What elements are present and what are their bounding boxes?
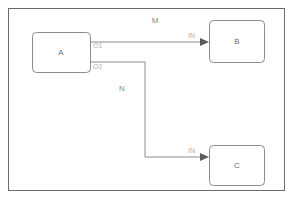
node-c[interactable]: C [210, 146, 265, 186]
edge-label-n: N [119, 84, 125, 93]
node-b[interactable]: B [210, 21, 265, 63]
diagram-svg: A B C O1 O2 IN IN M N [0, 0, 294, 201]
edge-label-m: M [152, 16, 159, 25]
port-label-b-in: IN [188, 32, 195, 39]
port-label-a-o2: O2 [93, 63, 102, 70]
node-a[interactable]: A [33, 33, 91, 73]
node-a-label: A [58, 48, 64, 57]
node-b-label: B [234, 37, 239, 46]
node-c-label: C [234, 161, 240, 170]
port-label-c-in: IN [188, 147, 195, 154]
port-label-a-o1: O1 [93, 42, 102, 49]
diagram-canvas: A B C O1 O2 IN IN M N [0, 0, 294, 201]
